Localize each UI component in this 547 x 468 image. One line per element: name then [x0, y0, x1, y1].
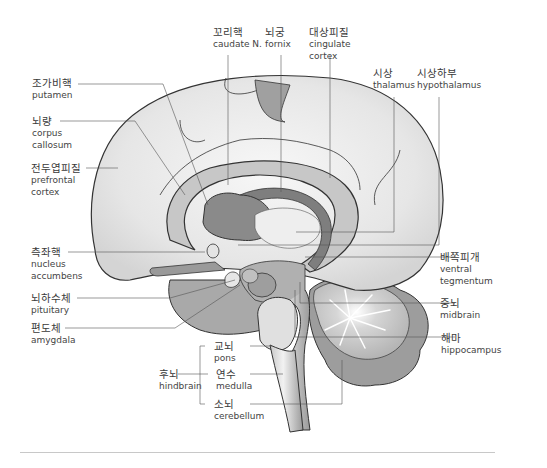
label-pituitary: 뇌하수체 pituitary: [31, 292, 71, 317]
label-ko: 측좌핵: [31, 246, 83, 259]
label-en: ventral: [440, 264, 493, 276]
label-en: hindbrain: [159, 381, 202, 393]
label-ko: 소뇌: [214, 398, 264, 411]
label-en: cingulate: [309, 39, 351, 51]
label-en: hippocampus: [441, 345, 501, 357]
label-ko: 꼬리핵: [213, 26, 262, 39]
label-ko: 편도체: [31, 322, 76, 335]
label-ko: 해마: [441, 332, 501, 345]
label-hindbrain: 후뇌 hindbrain: [159, 368, 202, 393]
label-medulla: 연수 medulla: [216, 368, 252, 393]
pituitary-gland: [225, 272, 240, 287]
label-putamen: 조가비핵 putamen: [32, 77, 72, 102]
divider-line: [20, 452, 495, 453]
label-en: putamen: [32, 90, 72, 102]
label-en: amygdala: [31, 335, 76, 347]
label-thalamus: 시상 thalamus: [373, 67, 415, 92]
amygdala-body: [242, 269, 258, 283]
label-fornix: 뇌궁 fornix: [265, 26, 291, 51]
label-en: accumbens: [31, 271, 83, 283]
label-midbrain: 중뇌 midbrain: [440, 297, 480, 322]
label-ko: 뇌하수체: [31, 292, 71, 305]
label-en: hypothalamus: [417, 80, 481, 92]
label-en: prefrontal: [31, 175, 81, 187]
label-ko: 뇌량: [32, 115, 72, 128]
label-en: cerebellum: [214, 411, 264, 423]
label-en: corpus: [32, 128, 72, 140]
label-ko: 뇌궁: [265, 26, 291, 39]
label-ko: 교뇌: [214, 340, 236, 353]
label-cerebellum: 소뇌 cerebellum: [214, 398, 264, 423]
label-ko: 배쪽피개: [440, 251, 493, 264]
nucleus-accumbens: [207, 244, 219, 258]
label-hippocampus: 해마 hippocampus: [441, 332, 501, 357]
label-ko: 연수: [216, 368, 252, 381]
label-prefrontal-cortex: 전두엽피질 prefrontal cortex: [31, 162, 81, 198]
label-en: caudate N.: [213, 39, 262, 51]
pons: [258, 297, 298, 350]
label-amygdala: 편도체 amygdala: [31, 322, 76, 347]
label-en: nucleus: [31, 259, 83, 271]
label-ko: 조가비핵: [32, 77, 72, 90]
label-ko: 시상하부: [417, 67, 481, 80]
label-en: pons: [214, 353, 236, 365]
label-ko: 시상: [373, 67, 415, 80]
label-en: cortex: [31, 187, 81, 199]
label-ko: 전두엽피질: [31, 162, 81, 175]
label-hypothalamus: 시상하부 hypothalamus: [417, 67, 481, 92]
label-ventral-tegmentum: 배쪽피개 ventral tegmentum: [440, 251, 493, 287]
label-en: cortex: [309, 51, 351, 63]
label-en: midbrain: [440, 310, 480, 322]
label-cingulate-cortex: 대상피질 cingulate cortex: [309, 26, 351, 62]
label-ko: 후뇌: [159, 368, 202, 381]
label-en: tegmentum: [440, 276, 493, 288]
label-en: thalamus: [373, 80, 415, 92]
label-en: medulla: [216, 381, 252, 393]
label-ko: 중뇌: [440, 297, 480, 310]
label-nucleus-accumbens: 측좌핵 nucleus accumbens: [31, 246, 83, 282]
label-en: fornix: [265, 39, 291, 51]
label-caudate-nucleus: 꼬리핵 caudate N.: [213, 26, 262, 51]
label-corpus-callosum: 뇌량 corpus callosum: [32, 115, 72, 151]
label-en: callosum: [32, 140, 72, 152]
label-en: pituitary: [31, 305, 71, 317]
label-pons: 교뇌 pons: [214, 340, 236, 365]
label-ko: 대상피질: [309, 26, 351, 39]
